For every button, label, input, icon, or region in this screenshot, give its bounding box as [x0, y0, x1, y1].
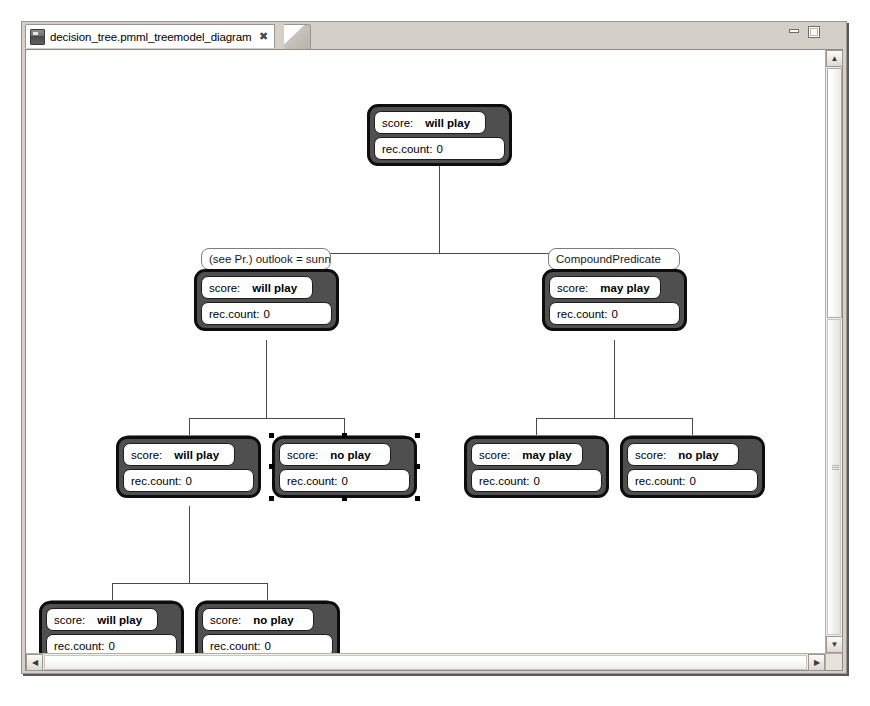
rec-count-row: rec.count: 0 — [46, 634, 177, 653]
editor-window: decision_tree.pmml_treemodel_diagram ✖ — [21, 21, 847, 674]
selection-handle-top-left[interactable] — [269, 433, 274, 438]
connector — [189, 506, 190, 583]
score-key: score: — [635, 449, 666, 461]
connector — [112, 583, 267, 584]
score-value: will play — [174, 449, 219, 461]
horizontal-scrollbar-thumb[interactable] — [44, 655, 807, 670]
rec-count-value: 0 — [534, 475, 540, 487]
score-value: will play — [425, 117, 470, 129]
selection-handle-middle-left[interactable] — [269, 464, 274, 469]
predicate-text: CompoundPredicate — [556, 253, 661, 265]
rec-count-key: rec.count: — [635, 475, 686, 487]
connector — [614, 340, 615, 418]
rec-count-value: 0 — [612, 308, 618, 320]
maximize-button[interactable] — [807, 25, 822, 39]
tab-decision-tree-diagram[interactable]: decision_tree.pmml_treemodel_diagram ✖ — [25, 24, 275, 48]
tree-node-n-rr2[interactable]: score: no play rec.count: 0 — [620, 436, 765, 498]
rec-count-row: rec.count: 0 — [374, 137, 505, 160]
score-value: no play — [330, 449, 370, 461]
tab-slant-decoration — [284, 24, 311, 50]
score-value: may play — [600, 282, 649, 294]
rec-count-value: 0 — [186, 475, 192, 487]
file-icon — [30, 29, 45, 45]
rec-count-value: 0 — [109, 640, 115, 652]
rec-count-row: rec.count: 0 — [627, 469, 758, 492]
close-icon[interactable]: ✖ — [259, 31, 268, 42]
tree-node-n-r1[interactable]: score: may play rec.count: 0 — [542, 269, 687, 331]
score-row: score: may play — [549, 276, 661, 299]
score-row: score: may play — [471, 443, 583, 466]
selection-handle-top-right[interactable] — [415, 433, 420, 438]
score-value: may play — [522, 449, 571, 461]
tree-node-n-l1[interactable]: score: will play rec.count: 0 — [194, 269, 339, 331]
rec-count-key: rec.count: — [557, 308, 608, 320]
chevron-right-icon: ▶ — [814, 659, 820, 667]
connector — [266, 340, 267, 418]
score-row: score: no play — [627, 443, 739, 466]
rec-count-row: rec.count: 0 — [549, 302, 680, 325]
predicate-label-n-r1[interactable]: CompoundPredicate — [548, 248, 680, 270]
tree-node-n-llr3[interactable]: score: no play rec.count: 0 — [195, 601, 340, 653]
predicate-label-n-l1[interactable]: (see Pr.) outlook = sunny — [201, 248, 331, 270]
rec-count-key: rec.count: — [131, 475, 182, 487]
tree-node-root[interactable]: score: will play rec.count: 0 — [367, 104, 512, 166]
rec-count-row: rec.count: 0 — [201, 302, 332, 325]
diagram-editor: (see Pr.) outlook = sunny CompoundPredic… — [25, 49, 843, 671]
score-value: no play — [253, 614, 293, 626]
scroll-down-button[interactable]: ▼ — [826, 636, 843, 653]
scroll-up-button[interactable]: ▲ — [826, 50, 843, 67]
scrollbar-corner — [825, 653, 842, 670]
minimize-icon — [789, 29, 799, 33]
tab-label: decision_tree.pmml_treemodel_diagram — [50, 31, 252, 43]
selection-handle-bottom-right[interactable] — [415, 496, 420, 501]
vertical-scrollbar-track[interactable] — [827, 319, 841, 635]
score-key: score: — [131, 449, 162, 461]
score-key: score: — [557, 282, 588, 294]
score-row: score: will play — [374, 111, 486, 134]
rec-count-row: rec.count: 0 — [123, 469, 254, 492]
rec-count-value: 0 — [690, 475, 696, 487]
score-value: will play — [252, 282, 297, 294]
rec-count-key: rec.count: — [382, 143, 433, 155]
rec-count-value: 0 — [437, 143, 443, 155]
score-key: score: — [209, 282, 240, 294]
diagram-canvas[interactable]: (see Pr.) outlook = sunny CompoundPredic… — [26, 50, 825, 653]
minimize-button[interactable] — [787, 25, 802, 39]
selection-handle-middle-right[interactable] — [415, 464, 420, 469]
vertical-scrollbar[interactable]: ▲ ▼ — [825, 50, 842, 653]
score-key: score: — [382, 117, 413, 129]
rec-count-row: rec.count: 0 — [202, 634, 333, 653]
scroll-left-button[interactable]: ◀ — [26, 654, 43, 671]
score-row: score: no play — [202, 608, 314, 631]
selection-handle-top-center[interactable] — [342, 433, 347, 438]
score-key: score: — [287, 449, 318, 461]
score-row: score: will play — [123, 443, 235, 466]
horizontal-scrollbar[interactable]: ◀ ▶ — [26, 653, 825, 670]
rec-count-row: rec.count: 0 — [471, 469, 602, 492]
vertical-scrollbar-thumb[interactable] — [827, 68, 842, 318]
chevron-up-icon: ▲ — [831, 55, 839, 63]
connector — [189, 418, 344, 419]
rec-count-key: rec.count: — [479, 475, 530, 487]
rec-count-value: 0 — [264, 308, 270, 320]
tree-node-n-rl2[interactable]: score: may play rec.count: 0 — [464, 436, 609, 498]
tree-node-n-ll2[interactable]: score: will play rec.count: 0 — [116, 436, 261, 498]
selection-handle-bottom-left[interactable] — [269, 496, 274, 501]
rec-count-key: rec.count: — [287, 475, 338, 487]
score-value: will play — [97, 614, 142, 626]
rec-count-value: 0 — [342, 475, 348, 487]
selection-handle-bottom-center[interactable] — [342, 496, 347, 501]
score-key: score: — [479, 449, 510, 461]
tab-bar: decision_tree.pmml_treemodel_diagram ✖ — [22, 22, 846, 49]
score-row: score: will play — [201, 276, 313, 299]
rec-count-value: 0 — [265, 640, 271, 652]
rec-count-key: rec.count: — [54, 640, 105, 652]
tree-node-n-lr2[interactable]: score: no play rec.count: 0 — [272, 436, 417, 498]
scroll-right-button[interactable]: ▶ — [808, 654, 825, 671]
score-value: no play — [678, 449, 718, 461]
rec-count-key: rec.count: — [209, 308, 260, 320]
window-controls — [787, 25, 822, 39]
tree-node-n-lll3[interactable]: score: will play rec.count: 0 — [39, 601, 184, 653]
rec-count-key: rec.count: — [210, 640, 261, 652]
score-row: score: no play — [279, 443, 391, 466]
